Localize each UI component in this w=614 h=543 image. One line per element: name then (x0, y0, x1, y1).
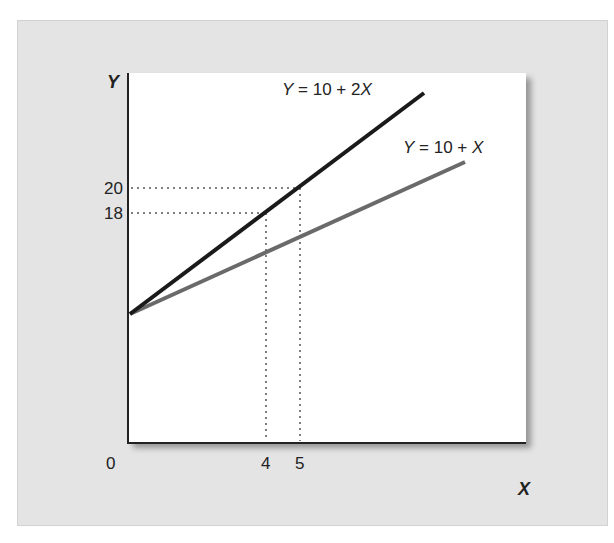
y-tick-18: 18 (104, 205, 123, 222)
line1-equation-label: Y = 10 + 2X (282, 80, 372, 100)
eq2-y: Y (403, 138, 414, 157)
eq2-mid: = 10 + (414, 138, 472, 157)
eq1-x: X (360, 80, 371, 99)
line-y-10-plus-2x (130, 93, 424, 314)
x-axis-label: X (518, 480, 530, 498)
y-tick-20: 20 (104, 180, 123, 197)
line2-equation-label: Y = 10 + X (403, 138, 483, 158)
x-tick-4: 4 (261, 455, 270, 472)
eq1-mid: = 10 + 2 (293, 80, 360, 99)
eq2-x: X (472, 138, 483, 157)
x-tick-5: 5 (295, 455, 304, 472)
line-y-10-plus-x (130, 162, 465, 314)
origin-label: 0 (106, 455, 115, 472)
y-axis-label: Y (107, 73, 119, 91)
reference-lines (131, 188, 300, 441)
eq1-y: Y (282, 80, 293, 99)
